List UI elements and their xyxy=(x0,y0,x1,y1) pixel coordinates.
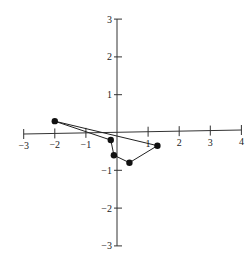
x-tick-label: 4 xyxy=(239,136,244,147)
y-tick-label: −3 xyxy=(101,240,112,251)
x-axis-ticks: −3−2−11234 xyxy=(18,125,244,151)
x-tick-label: 3 xyxy=(208,137,213,148)
y-tick-label: −2 xyxy=(101,203,112,214)
data-point-marker xyxy=(52,118,58,124)
data-point-marker xyxy=(111,152,117,158)
y-tick-label: −1 xyxy=(101,165,112,176)
data-point-marker xyxy=(108,137,114,143)
axes xyxy=(24,19,242,246)
x-tick-label: −1 xyxy=(81,139,92,150)
polygon-plot: −3−2−11234 321−1−2−3 xyxy=(0,0,251,263)
polygon-outline xyxy=(55,121,158,163)
x-tick-label: −2 xyxy=(49,139,60,150)
data-point-marker xyxy=(126,160,132,166)
x-tick-label: −3 xyxy=(18,140,29,151)
y-tick-label: 1 xyxy=(107,89,112,100)
y-tick-label: 3 xyxy=(107,14,112,25)
x-tick-label: 2 xyxy=(177,137,182,148)
y-tick-label: 2 xyxy=(107,51,112,62)
x-axis-line xyxy=(24,130,242,134)
data-point-marker xyxy=(154,143,160,149)
polygon-edges xyxy=(55,121,158,163)
